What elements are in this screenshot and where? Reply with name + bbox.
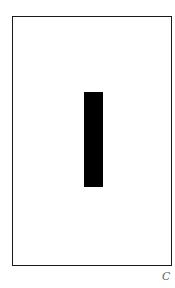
vertical-bar <box>84 92 103 187</box>
panel-label: C <box>162 271 170 283</box>
